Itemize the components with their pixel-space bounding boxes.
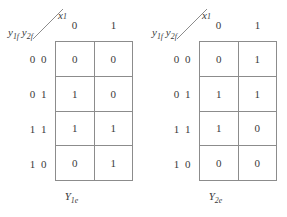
kmap-cell: 0 bbox=[56, 42, 95, 76]
kmap-figure-y1e: x1 y1f y2f 0 1 0 0 0 1 1 1 1 0 0 0 1 0 1… bbox=[0, 0, 143, 217]
kmap-grid: 0 1 1 1 1 0 0 0 bbox=[199, 41, 277, 181]
column-header: 1 bbox=[94, 19, 133, 31]
kmap-cell: 0 bbox=[239, 112, 277, 146]
kmap-caption: Y1e bbox=[0, 190, 143, 205]
kmap-cell: 1 bbox=[95, 146, 133, 180]
kmap-cell: 1 bbox=[56, 112, 95, 146]
column-headers: 0 1 bbox=[199, 19, 277, 31]
kmap-row: 1 1 bbox=[56, 112, 132, 147]
row-header: 1 1 bbox=[158, 111, 196, 146]
column-header: 1 bbox=[238, 19, 277, 31]
row-variable-1-sub: 1f bbox=[13, 32, 19, 41]
row-header: 0 0 bbox=[14, 41, 52, 76]
kmap-row: 1 1 bbox=[200, 77, 276, 112]
kmap-cell: 1 bbox=[200, 112, 239, 146]
row-header: 1 0 bbox=[14, 146, 52, 181]
kmap-cell: 1 bbox=[95, 112, 133, 146]
kmap-cell: 0 bbox=[200, 42, 239, 76]
kmap-header-zone: x1 y1f y2f 0 1 bbox=[0, 0, 143, 41]
kmap-cell: 0 bbox=[239, 146, 277, 180]
row-header: 1 0 bbox=[158, 146, 196, 181]
row-variable-label: y1f y2f bbox=[8, 26, 33, 41]
kmap-cell: 0 bbox=[56, 146, 95, 180]
column-header: 0 bbox=[199, 19, 238, 31]
kmap-row: 0 0 bbox=[56, 42, 132, 77]
row-headers: 0 0 0 1 1 1 1 0 bbox=[14, 41, 52, 181]
kmap-row: 1 0 bbox=[200, 112, 276, 147]
kmap-cell: 1 bbox=[200, 77, 239, 111]
row-variable-2-sub: 2f bbox=[171, 32, 177, 41]
row-variable-label: y1f y2f bbox=[152, 26, 177, 41]
column-headers: 0 1 bbox=[55, 19, 133, 31]
row-variable-2-sub: 2f bbox=[27, 32, 33, 41]
kmap-row: 0 1 bbox=[200, 42, 276, 77]
kmap-row: 0 0 bbox=[200, 146, 276, 180]
kmap-row: 1 0 bbox=[56, 77, 132, 112]
kmap-row: 0 1 bbox=[56, 146, 132, 180]
kmap-caption-sub: 1e bbox=[71, 196, 78, 205]
kmap-figure-y2e: x1 y1f y2f 0 1 0 0 0 1 1 1 1 0 0 1 1 1 1… bbox=[144, 0, 287, 217]
row-header: 1 1 bbox=[14, 111, 52, 146]
kmap-cell: 1 bbox=[239, 77, 277, 111]
kmap-grid: 0 0 1 0 1 1 0 1 bbox=[55, 41, 133, 181]
row-header: 0 1 bbox=[158, 76, 196, 111]
kmap-cell: 1 bbox=[239, 42, 277, 76]
row-variable-1-sub: 1f bbox=[157, 32, 163, 41]
row-header: 0 1 bbox=[14, 76, 52, 111]
column-header: 0 bbox=[55, 19, 94, 31]
kmap-header-zone: x1 y1f y2f 0 1 bbox=[144, 0, 287, 41]
kmap-cell: 0 bbox=[95, 77, 133, 111]
kmap-cell: 1 bbox=[56, 77, 95, 111]
kmap-caption: Y2e bbox=[144, 190, 287, 205]
kmap-caption-sub: 2e bbox=[215, 196, 222, 205]
row-headers: 0 0 0 1 1 1 1 0 bbox=[158, 41, 196, 181]
kmap-cell: 0 bbox=[200, 146, 239, 180]
row-header: 0 0 bbox=[158, 41, 196, 76]
kmap-cell: 0 bbox=[95, 42, 133, 76]
